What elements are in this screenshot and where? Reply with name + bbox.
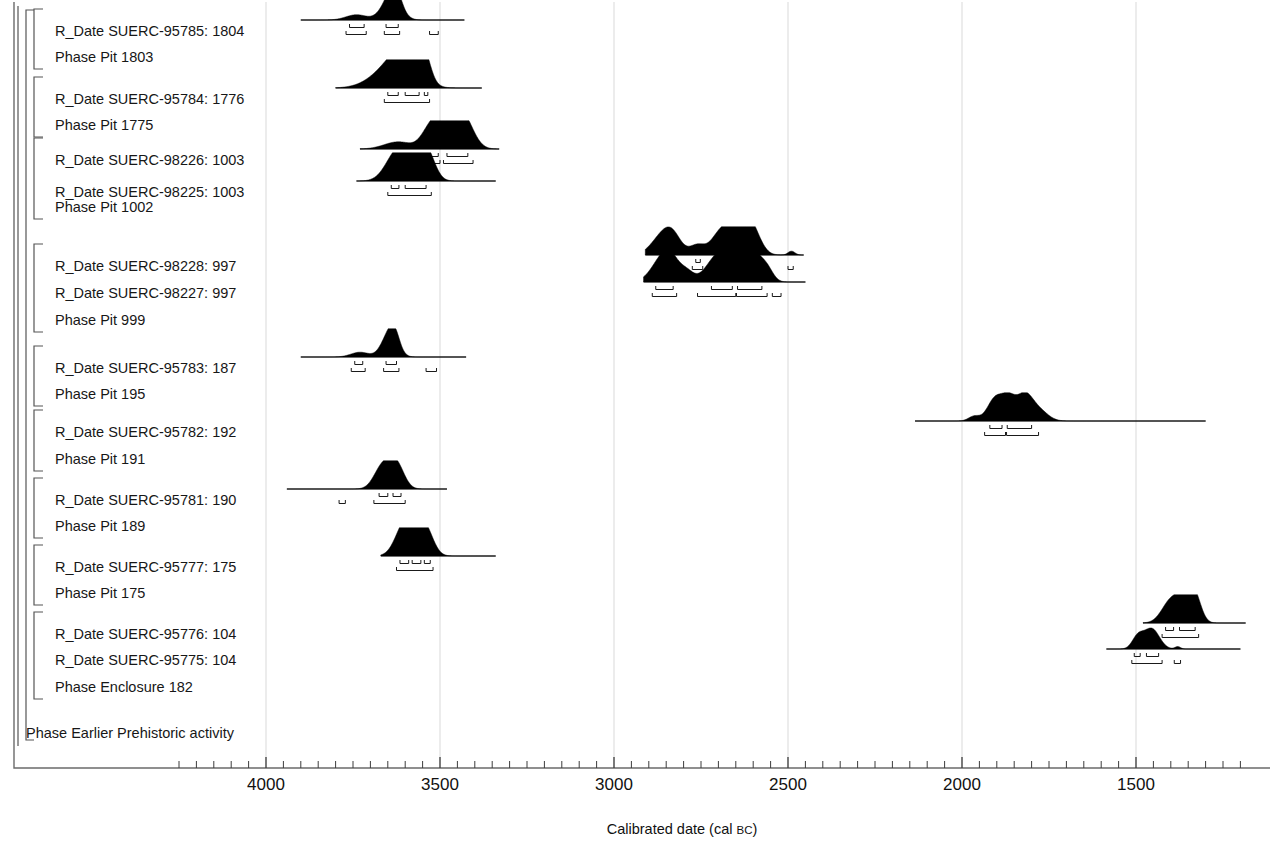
row-label-phase: Phase Pit 1803 xyxy=(55,49,153,65)
range-bar-68pct xyxy=(990,425,1002,429)
range-bar-95pct xyxy=(430,31,439,35)
distribution xyxy=(915,393,1206,436)
group-bracket xyxy=(34,478,43,538)
row-label-phase: Phase Pit 189 xyxy=(55,518,145,534)
distribution xyxy=(644,254,806,297)
distribution xyxy=(356,153,495,196)
range-bar-95pct xyxy=(388,192,432,196)
range-bar-95pct xyxy=(788,266,793,270)
range-bar-68pct xyxy=(400,560,409,564)
range-bar-95pct xyxy=(772,293,781,297)
x-axis-title: Calibrated date (cal BC) xyxy=(607,821,758,837)
x-axis-title-era: BC xyxy=(736,824,752,836)
group-bracket xyxy=(34,410,43,471)
range-bar-68pct xyxy=(386,361,396,365)
radiocarbon-calibration-plot: 400035003000250020001500Calibrated date … xyxy=(0,0,1278,842)
tick-label-3500: 3500 xyxy=(421,775,459,794)
range-bar-68pct xyxy=(405,92,419,96)
range-bar-95pct xyxy=(384,31,399,35)
row-label-rdate: R_Date SUERC-95784: 1776 xyxy=(55,91,244,107)
range-bar-68pct xyxy=(393,493,401,497)
group-bracket xyxy=(26,10,34,740)
range-bar-68pct xyxy=(1166,627,1174,631)
group-bracket xyxy=(34,77,43,137)
gridlines-group xyxy=(266,2,1136,768)
range-bar-95pct xyxy=(736,293,767,297)
probability-distribution-curve xyxy=(301,329,466,357)
distribution xyxy=(301,329,466,372)
row-label-phase: Phase Pit 191 xyxy=(55,451,145,467)
distribution xyxy=(336,60,482,103)
distribution xyxy=(1106,628,1240,664)
range-bar-95pct xyxy=(384,99,429,103)
range-bar-68pct xyxy=(388,92,398,96)
group-bracket xyxy=(34,9,43,69)
group-bracket xyxy=(34,346,43,406)
range-bar-95pct xyxy=(426,368,436,372)
row-label-phase: Phase Pit 1775 xyxy=(55,117,153,133)
row-label-rdate: R_Date SUERC-98225: 1003 xyxy=(55,184,244,200)
row-label-rdate: R_Date SUERC-95785: 1804 xyxy=(55,23,244,39)
group-bracket xyxy=(34,138,43,219)
range-bar-68pct xyxy=(386,24,398,28)
row-label-rdate: R_Date SUERC-98227: 997 xyxy=(55,285,236,301)
row-label-rdate: R_Date SUERC-95775: 104 xyxy=(55,652,236,668)
range-bar-68pct xyxy=(1007,425,1031,429)
row-label-rdate: R_Date SUERC-95782: 192 xyxy=(55,424,236,440)
group-bracket xyxy=(34,244,43,332)
range-bar-68pct xyxy=(1134,653,1140,657)
x-axis-tick-labels: 400035003000250020001500 xyxy=(247,775,1155,794)
range-bar-68pct xyxy=(447,153,468,157)
row-label-rdate: R_Date SUERC-98226: 1003 xyxy=(55,152,244,168)
range-bar-95pct xyxy=(1162,634,1199,638)
row-label-phase: Phase Pit 195 xyxy=(55,386,145,402)
probability-distribution-curve xyxy=(645,227,803,255)
range-bar-95pct xyxy=(1007,432,1039,436)
probability-distribution-curve xyxy=(915,393,1206,421)
range-bar-95pct xyxy=(652,293,676,297)
distributions-group xyxy=(287,0,1246,664)
range-bar-95pct xyxy=(692,266,702,270)
plot-svg: 400035003000250020001500Calibrated date … xyxy=(0,0,1278,842)
probability-distribution-curve xyxy=(360,121,499,149)
tick-label-1500: 1500 xyxy=(1117,775,1155,794)
row-label-phase: Phase Pit 999 xyxy=(55,312,145,328)
range-bar-95pct xyxy=(1174,660,1180,664)
range-bar-68pct xyxy=(350,24,365,28)
probability-distribution-curve xyxy=(287,461,447,489)
range-bar-95pct xyxy=(346,31,366,35)
range-bar-68pct xyxy=(424,92,427,96)
probability-distribution-curve xyxy=(356,153,495,181)
range-bar-68pct xyxy=(696,259,701,263)
row-label-phase: Phase Pit 1002 xyxy=(55,199,153,215)
range-bar-95pct xyxy=(443,160,473,164)
range-bar-95pct xyxy=(384,368,399,372)
row-label-phase: Phase Earlier Prehistoric activity xyxy=(26,725,235,741)
row-label-rdate: R_Date SUERC-95781: 190 xyxy=(55,492,236,508)
range-bar-68pct xyxy=(379,493,388,497)
probability-distribution-curve xyxy=(381,528,496,556)
row-label-rdate: R_Date SUERC-95776: 104 xyxy=(55,626,236,642)
range-bar-95pct xyxy=(985,432,1006,436)
range-bar-68pct xyxy=(424,560,430,564)
row-labels-group: R_Date SUERC-95785: 1804Phase Pit 1803R_… xyxy=(26,23,244,741)
range-bar-68pct xyxy=(391,185,399,189)
range-bar-95pct xyxy=(698,293,736,297)
x-axis-ticks xyxy=(179,757,1240,768)
range-bar-68pct xyxy=(738,286,762,290)
range-bar-68pct xyxy=(711,286,732,290)
range-bar-68pct xyxy=(1180,627,1196,631)
range-bar-68pct xyxy=(355,361,363,365)
range-bar-68pct xyxy=(1146,653,1158,657)
bracket-group xyxy=(18,6,43,746)
probability-distribution-curve xyxy=(336,60,482,88)
range-bar-95pct xyxy=(351,368,365,372)
range-bar-68pct xyxy=(405,185,426,189)
tick-label-2000: 2000 xyxy=(943,775,981,794)
group-bracket xyxy=(34,545,43,605)
row-label-rdate: R_Date SUERC-95783: 187 xyxy=(55,360,236,376)
distribution xyxy=(1143,595,1246,638)
range-bar-95pct xyxy=(397,567,434,571)
tick-label-4000: 4000 xyxy=(247,775,285,794)
row-label-phase: Phase Pit 175 xyxy=(55,585,145,601)
